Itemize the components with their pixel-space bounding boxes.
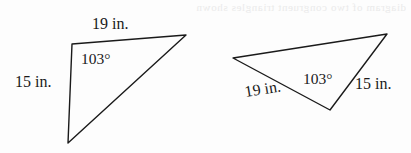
left-triangle-side-15-label: 15 in. xyxy=(15,74,51,90)
left-triangle-angle-label: 103° xyxy=(81,51,110,67)
right-triangle-angle-label: 103° xyxy=(303,71,332,87)
right-triangle-side-15-label: 15 in. xyxy=(355,76,391,92)
triangles-drawing xyxy=(0,0,411,153)
left-triangle-side-19-label: 19 in. xyxy=(92,16,128,32)
figure-stage: diagram of two congruent triangles shown… xyxy=(0,0,411,153)
